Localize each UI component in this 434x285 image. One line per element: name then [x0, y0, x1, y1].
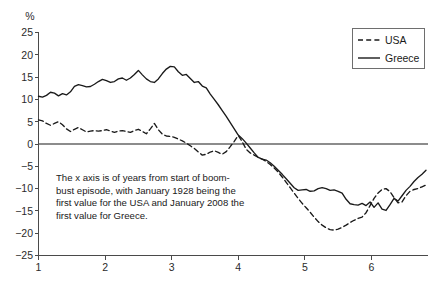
- y-tick-label: 10: [21, 93, 33, 105]
- x-tick-label: 6: [368, 261, 374, 273]
- y-axis-tick-labels: 2520151050−5−10−15−20−25: [15, 26, 33, 261]
- y-tick-label: 20: [21, 49, 33, 61]
- annotation-line-2: bust episode, with January 1928 being th…: [56, 185, 236, 196]
- x-tick-label: 3: [169, 261, 175, 273]
- y-axis-unit-label: %: [25, 10, 34, 22]
- chart-annotation: The x axis is of years from start of boo…: [56, 172, 244, 221]
- y-tick-label: −10: [15, 182, 33, 194]
- x-tick-label: 1: [36, 261, 42, 273]
- y-tick-label: 25: [21, 26, 33, 38]
- y-tick-label: 5: [27, 116, 33, 128]
- y-axis-tick-marks: [35, 33, 39, 256]
- x-tick-label: 5: [302, 261, 308, 273]
- y-tick-label: −20: [15, 227, 33, 239]
- y-tick-label: 0: [27, 138, 33, 150]
- x-axis-tick-marks: [39, 256, 372, 260]
- annotation-line-4: first value for Greece.: [56, 210, 148, 221]
- y-tick-label: −5: [21, 160, 33, 172]
- chart-container: 2520151050−5−10−15−20−25 123456 % USA Gr…: [0, 0, 434, 285]
- annotation-line-1: The x axis is of years from start of boo…: [56, 172, 230, 183]
- annotation-line-3: first value for the USA and January 2008…: [56, 197, 244, 208]
- x-tick-label: 4: [235, 261, 241, 273]
- y-tick-label: −15: [15, 205, 33, 217]
- x-tick-label: 2: [102, 261, 108, 273]
- legend-label-greece: Greece: [385, 52, 420, 64]
- y-tick-label: 15: [21, 71, 33, 83]
- line-chart: 2520151050−5−10−15−20−25 123456 % USA Gr…: [0, 0, 434, 285]
- legend-label-usa: USA: [385, 34, 407, 46]
- chart-legend: USA Greece: [352, 28, 424, 68]
- x-axis-tick-labels: 123456: [36, 261, 375, 273]
- y-tick-label: −25: [15, 249, 33, 261]
